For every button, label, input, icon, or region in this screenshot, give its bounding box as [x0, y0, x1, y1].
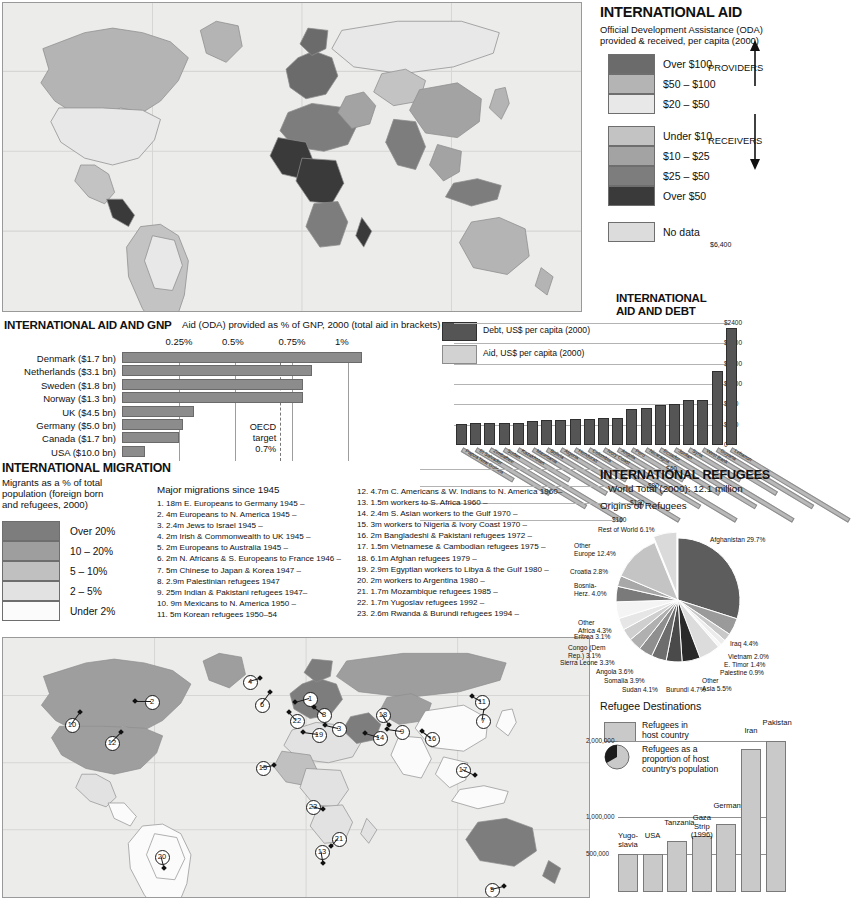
map-country-usa[interactable] — [51, 726, 162, 774]
map-country-scandinavia[interactable] — [304, 659, 332, 682]
table-row[interactable] — [122, 446, 145, 457]
map-country-greenland[interactable] — [203, 653, 245, 688]
map-country-indonesia[interactable] — [445, 179, 501, 206]
table-row[interactable] — [612, 418, 623, 445]
migration-list-item: 12. 4.7m C. Americans & W. Indians to N.… — [357, 486, 597, 497]
map-country-japan[interactable] — [496, 709, 516, 736]
aid-legend-swatch — [608, 94, 655, 114]
migration-marker-6[interactable]: 6 — [255, 698, 270, 713]
aid-legend-label: $20 – $50 — [663, 94, 710, 114]
map-country-madagascar[interactable] — [361, 818, 377, 843]
axis-tick-label: 0.75% — [279, 336, 306, 347]
table-row[interactable] — [712, 371, 723, 445]
table-row[interactable] — [584, 419, 595, 445]
migration-legend-item[interactable]: 2 – 5% — [2, 581, 152, 601]
table-row[interactable] — [741, 749, 761, 892]
migration-marker-2[interactable]: 2 — [145, 695, 160, 710]
map-country-china[interactable] — [410, 83, 482, 138]
map-country-africa-south[interactable] — [306, 201, 348, 247]
map-country-mexico[interactable] — [76, 774, 116, 807]
bar-category-label: Denmark ($1.7 bn) — [0, 353, 116, 364]
migration-marker-21[interactable]: 21 — [332, 832, 347, 847]
migration-legend[interactable]: Over 20%10 – 20%5 – 10%2 – 5%Under 2% — [2, 521, 152, 621]
map-country-mexico[interactable] — [75, 165, 115, 204]
migration-legend-item[interactable]: Over 20% — [2, 521, 152, 541]
map-country-new-zealand[interactable] — [535, 268, 553, 295]
map-country-india[interactable] — [386, 119, 426, 169]
table-row[interactable] — [122, 352, 362, 363]
aid-legend-item[interactable]: Over $100 — [608, 54, 712, 74]
table-row[interactable] — [683, 400, 694, 445]
aid-legend-item[interactable]: Under $10 — [608, 126, 712, 146]
table-row[interactable] — [122, 432, 179, 443]
table-row[interactable] — [618, 854, 638, 892]
table-row[interactable] — [643, 854, 663, 892]
map-country-central-america[interactable] — [107, 199, 135, 226]
aid-gnp-chart[interactable]: INTERNATIONAL AID AND GNP Aid (ODA) prov… — [0, 318, 585, 458]
table-row[interactable] — [726, 328, 737, 445]
map-country-japan[interactable] — [489, 87, 509, 119]
migration-marker-15[interactable]: 15 — [256, 761, 271, 776]
aid-legend-item[interactable]: $10 – $25 — [608, 146, 710, 166]
map-country-europe[interactable] — [286, 51, 338, 99]
table-row[interactable] — [641, 408, 652, 445]
aid-legend-item[interactable]: Over $50 — [608, 186, 706, 206]
map-country-africa-central[interactable] — [300, 768, 348, 806]
table-row[interactable] — [122, 392, 303, 403]
map-country-greenland[interactable] — [200, 21, 242, 62]
aid-section: INTERNATIONAL AID Official Development A… — [600, 2, 771, 234]
migration-world-map[interactable]: 1234567891011121314151617181920212223 — [2, 637, 590, 898]
table-row[interactable] — [598, 418, 609, 445]
aid-world-map[interactable] — [2, 2, 582, 312]
table-row[interactable] — [122, 406, 194, 417]
migration-legend-label: Under 2% — [70, 606, 115, 617]
map-country-indonesia[interactable] — [452, 786, 509, 809]
map-country-africa-central[interactable] — [296, 158, 344, 204]
map-country-russia[interactable] — [336, 653, 506, 697]
migration-legend-item[interactable]: 5 – 10% — [2, 561, 152, 581]
aid-legend-item[interactable]: $20 – $50 — [608, 94, 710, 114]
map-country-australia[interactable] — [459, 217, 529, 274]
table-row[interactable] — [669, 404, 680, 445]
table-row[interactable] — [716, 824, 736, 892]
table-row[interactable] — [692, 836, 712, 892]
map-country-russia[interactable] — [332, 21, 499, 73]
migration-marker-10[interactable]: 10 — [65, 718, 80, 733]
map-country-madagascar[interactable] — [356, 217, 372, 247]
map-country-australia[interactable] — [466, 818, 537, 866]
map-country-central-america[interactable] — [108, 803, 136, 826]
migration-marker-3[interactable]: 3 — [332, 722, 347, 737]
migration-marker-4[interactable]: 4 — [243, 675, 258, 690]
map-country-new-zealand[interactable] — [543, 861, 561, 884]
table-row[interactable] — [766, 741, 786, 892]
migration-marker-5[interactable]: 5 — [485, 883, 500, 898]
table-row[interactable] — [697, 400, 708, 445]
table-row[interactable] — [667, 841, 687, 892]
migration-marker-19[interactable]: 19 — [312, 728, 327, 743]
migration-marker-11[interactable]: 11 — [475, 695, 490, 710]
table-row[interactable] — [122, 419, 183, 430]
refugee-destinations-chart[interactable]: Refugee Destinations Refugees in host co… — [600, 700, 771, 898]
aid-legend-item[interactable]: $50 – $100 — [608, 74, 716, 94]
pie-slice-label: Angola 3.6% — [596, 668, 633, 676]
aid-legend-swatch — [608, 186, 655, 206]
migration-legend-item[interactable]: Under 2% — [2, 601, 152, 621]
table-row[interactable] — [626, 409, 637, 445]
migration-marker-14[interactable]: 14 — [373, 731, 388, 746]
map-country-se-asia[interactable] — [430, 144, 462, 181]
migration-marker-12[interactable]: 12 — [105, 736, 120, 751]
map-country-north-america[interactable] — [41, 28, 188, 117]
migration-marker-9[interactable]: 9 — [395, 725, 410, 740]
aid-legend-item[interactable]: $25 – $50 — [608, 166, 710, 186]
origins-pie-chart[interactable]: Afghanistan 29.7%Iraq 4.4%Vietnam 2.0%E.… — [560, 520, 771, 685]
map-country-usa[interactable] — [51, 108, 161, 165]
map-country-north-america[interactable] — [41, 659, 191, 734]
migration-legend-item[interactable]: 10 – 20% — [2, 541, 152, 561]
table-row[interactable] — [122, 365, 312, 376]
migration-list-item: 3. 2.4m Jews to Israel 1945 – — [157, 520, 357, 531]
aid-legend-item[interactable]: No data — [608, 222, 700, 242]
table-row[interactable] — [655, 405, 666, 445]
table-row[interactable] — [122, 379, 303, 390]
map-country-scandinavia[interactable] — [300, 28, 328, 55]
pie-slice-label: Sudan 4.1% — [622, 686, 658, 694]
